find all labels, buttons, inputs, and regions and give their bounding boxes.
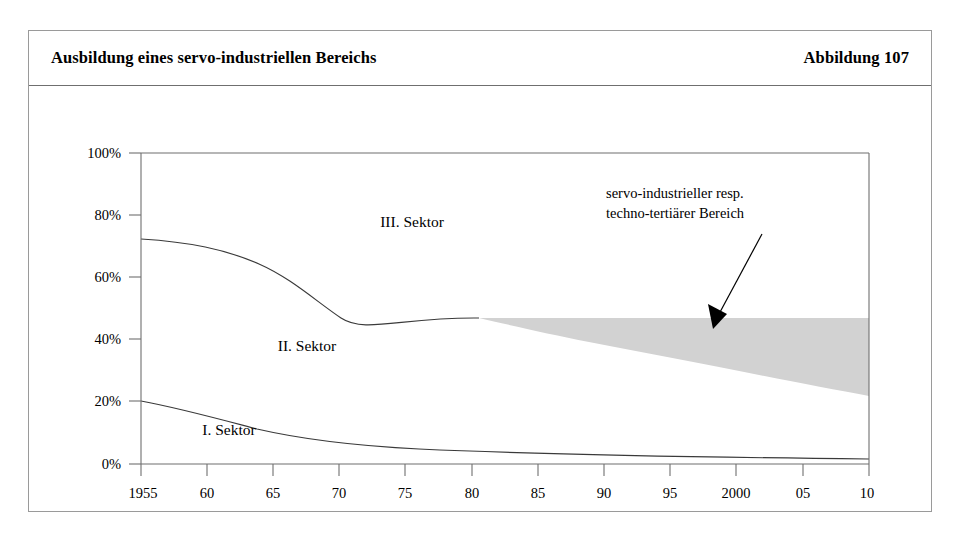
label-sektor-1: I. Sektor: [202, 421, 256, 438]
x-tick-label: 2000: [722, 485, 751, 501]
x-tick-label: 95: [663, 485, 678, 501]
x-tick-marks: [141, 464, 869, 476]
figure-number: Abbildung 107: [804, 48, 909, 68]
label-sektor-3: III. Sektor: [380, 213, 445, 230]
x-tick-label: 05: [796, 485, 811, 501]
y-tick-label: 20%: [94, 393, 121, 409]
x-tick-label: 80: [465, 485, 480, 501]
x-tick-label: 90: [597, 485, 612, 501]
y-tick-label: 80%: [94, 207, 121, 223]
x-tick-label: 1955: [129, 485, 158, 501]
y-tick-label: 0%: [102, 456, 121, 472]
annotation-servo-line-1: servo-industrieller resp.: [606, 185, 744, 201]
curve-sector-ii-iii: [141, 239, 479, 325]
annotation-arrow-line: [719, 234, 762, 314]
y-tick-labels: 100% 80% 60% 40% 20% 0%: [87, 145, 121, 472]
chart-svg: 100% 80% 60% 40% 20% 0%: [29, 86, 933, 512]
y-tick-label: 60%: [94, 269, 121, 285]
x-tick-label: 65: [266, 485, 281, 501]
label-sektor-2: II. Sektor: [278, 337, 337, 354]
plot-area: 100% 80% 60% 40% 20% 0%: [29, 86, 931, 512]
y-tick-label: 40%: [94, 331, 121, 347]
figure-title-bar: Ausbildung eines servo-industriellen Ber…: [29, 31, 931, 86]
y-tick-label: 100%: [87, 145, 121, 161]
x-tick-label: 85: [531, 485, 546, 501]
figure-frame: Ausbildung eines servo-industriellen Ber…: [28, 30, 932, 512]
x-tick-label: 70: [332, 485, 347, 501]
x-tick-label: 60: [200, 485, 215, 501]
x-tick-label: 10: [860, 485, 875, 501]
x-tick-label: 75: [398, 485, 413, 501]
y-tick-marks: [129, 153, 141, 464]
x-tick-labels: 1955 60 65 70 75 80 85 90 95 2000 05 10: [129, 485, 875, 501]
servo-industrial-wedge: [479, 318, 869, 396]
annotation-servo-line-2: techno-tertiärer Bereich: [606, 205, 745, 221]
figure-title: Ausbildung eines servo-industriellen Ber…: [51, 48, 377, 68]
